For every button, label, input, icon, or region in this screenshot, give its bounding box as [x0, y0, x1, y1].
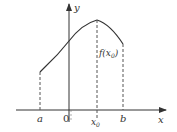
a-label: a — [37, 113, 43, 124]
y-axis-label: y — [73, 2, 80, 13]
fx0-label: f(x0) — [98, 48, 119, 59]
b-label: b — [120, 113, 126, 124]
function-graph: y x 0 a b x0 f(x0) — [0, 0, 177, 132]
x-axis-label: x — [158, 114, 164, 125]
x0-label: x0 — [91, 117, 100, 128]
function-curve — [40, 20, 123, 72]
origin-label: 0 — [63, 113, 69, 124]
